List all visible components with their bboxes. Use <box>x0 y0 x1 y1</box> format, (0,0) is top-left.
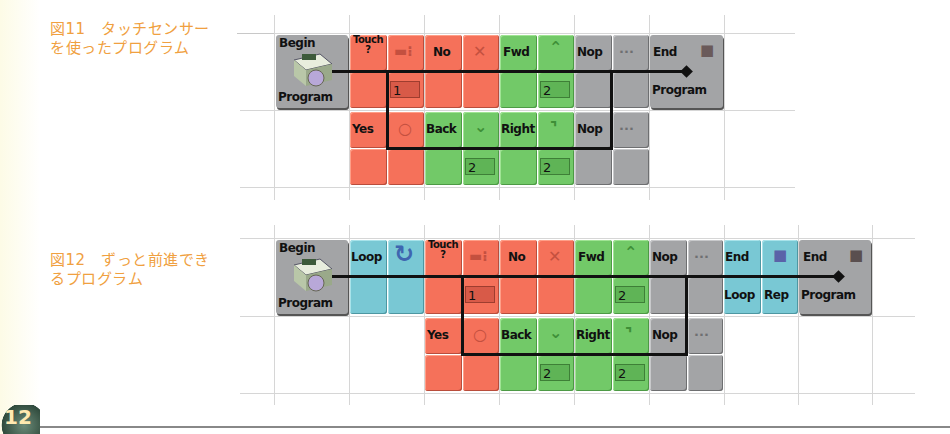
back-block-value-cell[interactable]: 2 <box>463 149 499 185</box>
figure12-caption-line2: るプログラム <box>50 270 143 289</box>
flow-wire-branch-bottom <box>386 147 612 150</box>
yes-branch-label[interactable]: Yes <box>425 318 462 354</box>
stop-square-icon: ■ <box>849 246 863 264</box>
back-block-label[interactable]: Back <box>500 318 537 354</box>
nop-block-label[interactable]: Nop <box>650 318 687 354</box>
back-block-cell <box>500 355 537 391</box>
robot-icon <box>290 255 334 295</box>
touch-sensor-value-cell[interactable]: 1 <box>388 72 424 108</box>
forward-block-label[interactable]: Fwd <box>500 35 537 71</box>
touch-sensor-port-field[interactable]: 1 <box>390 81 420 98</box>
no-branch-label[interactable]: No <box>425 35 462 71</box>
yes-branch-icon-cell[interactable]: ○ <box>388 112 424 148</box>
right-block-value-cell[interactable]: 2 <box>613 355 649 391</box>
stop-square-icon: ■ <box>773 246 787 264</box>
no-branch-icon-cell[interactable]: ✕ <box>463 35 499 71</box>
back-block-cell <box>425 149 462 185</box>
yes-branch-cell <box>425 355 462 391</box>
yes-branch-label[interactable]: Yes <box>350 112 387 148</box>
figure11-caption-leader <box>237 33 275 34</box>
forward-block-value-cell[interactable]: 2 <box>613 277 649 314</box>
no-branch-cell <box>500 277 537 314</box>
circle-icon: ○ <box>398 119 412 138</box>
forward-duration-field[interactable]: 2 <box>615 286 645 303</box>
figure12-caption-line1: 図12 ずっと前進でき <box>50 251 210 270</box>
nop-block-cell <box>650 277 687 314</box>
forward-duration-field[interactable]: 2 <box>540 81 570 98</box>
robot-icon <box>290 50 334 90</box>
dots-icon: ··· <box>619 121 634 136</box>
forward-block-label[interactable]: Fwd <box>575 240 612 276</box>
back-duration-field[interactable]: 2 <box>465 158 495 175</box>
yes-branch-icon-cell[interactable]: ○ <box>463 318 499 354</box>
arrow-down-icon: ⌄ <box>474 117 487 136</box>
touch-sensor-value-cell[interactable]: 1 <box>463 277 499 314</box>
back-block-icon-cell[interactable]: ⌄ <box>538 318 574 354</box>
nop-block-cell <box>688 355 723 391</box>
right-block-icon-cell[interactable]: ⌝ <box>613 318 649 354</box>
right-block-value-cell[interactable]: 2 <box>538 149 574 185</box>
touch-sensor-icon-cell[interactable]: ▬⁝ <box>388 35 424 71</box>
no-branch-cell <box>538 277 574 314</box>
circle-icon: ○ <box>473 325 487 344</box>
arrow-down-icon: ⌄ <box>549 323 562 342</box>
nop-block-cell <box>650 355 687 391</box>
nop-block-label[interactable]: Nop <box>650 240 687 276</box>
nop-block-label[interactable]: Nop <box>575 112 612 148</box>
dots-icon: ··· <box>694 327 709 342</box>
back-duration-field[interactable]: 2 <box>540 364 570 381</box>
page-number-badge: 12 <box>0 405 40 434</box>
left-margin-band <box>0 0 40 434</box>
right-block-cell <box>575 355 612 391</box>
figure11-caption-line2: を使ったプログラム <box>50 39 190 58</box>
flow-wire-main <box>332 275 840 278</box>
forward-block-icon-cell[interactable]: ⌃ <box>538 35 574 71</box>
figure11-caption-line1: 図11 タッチセンサー <box>50 20 210 39</box>
nop-block-cell <box>575 72 612 108</box>
nop-block-icon-cell[interactable]: ··· <box>613 112 649 148</box>
yes-branch-cell <box>463 355 499 391</box>
no-branch-cell <box>425 72 462 108</box>
touch-sensor-icon: ▬⁝ <box>469 248 488 264</box>
bottom-rule <box>40 426 950 428</box>
forward-block-icon-cell[interactable]: ⌃ <box>613 240 649 276</box>
forward-block-cell <box>500 72 537 108</box>
arrow-up-icon: ⌃ <box>549 38 562 57</box>
no-branch-cell <box>463 72 499 108</box>
nop-block-icon-cell[interactable]: ··· <box>688 318 723 354</box>
nop-block-icon-cell[interactable]: ··· <box>688 240 723 276</box>
turn-right-icon: ⌝ <box>625 324 633 343</box>
back-block-label[interactable]: Back <box>425 112 462 148</box>
forward-block-value-cell[interactable]: 2 <box>538 72 574 108</box>
touch-sensor-icon: ▬⁝ <box>394 43 413 59</box>
nop-block-icon-cell[interactable]: ··· <box>613 35 649 71</box>
no-branch-label[interactable]: No <box>500 240 537 276</box>
no-branch-icon-cell[interactable]: ✕ <box>538 240 574 276</box>
right-block-label[interactable]: Right <box>575 318 612 354</box>
back-block-icon-cell[interactable]: ⌄ <box>463 112 499 148</box>
right-block-label[interactable]: Right <box>500 112 537 148</box>
touch-sensor-label-cell[interactable]: Touch ? <box>350 35 387 71</box>
forward-block-cell <box>575 277 612 314</box>
loop-arrow-icon: ↻ <box>394 240 414 268</box>
nop-block-cell <box>575 149 612 185</box>
arrow-up-icon: ⌃ <box>624 243 637 262</box>
flow-wire-branch-left <box>386 70 389 149</box>
touch-sensor-icon-cell[interactable]: ▬⁝ <box>463 240 499 276</box>
nop-block-cell <box>613 149 649 185</box>
touch-sensor-label-cell[interactable]: Touch ? <box>425 240 462 276</box>
dots-icon: ··· <box>694 249 709 264</box>
touch-sensor-port-field[interactable]: 1 <box>465 286 495 303</box>
touch-sensor-cell <box>425 277 462 314</box>
back-block-value-cell[interactable]: 2 <box>538 355 574 391</box>
flow-wire-branch-right <box>610 70 613 150</box>
right-duration-field[interactable]: 2 <box>615 364 645 381</box>
nop-block-label[interactable]: Nop <box>575 35 612 71</box>
nop-block-cell <box>688 277 723 314</box>
yes-branch-cell <box>388 149 424 185</box>
cross-icon: ✕ <box>473 42 486 61</box>
right-duration-field[interactable]: 2 <box>540 158 570 175</box>
right-block-icon-cell[interactable]: ⌝ <box>538 112 574 148</box>
right-block-cell <box>500 149 537 185</box>
cross-icon: ✕ <box>548 247 561 266</box>
